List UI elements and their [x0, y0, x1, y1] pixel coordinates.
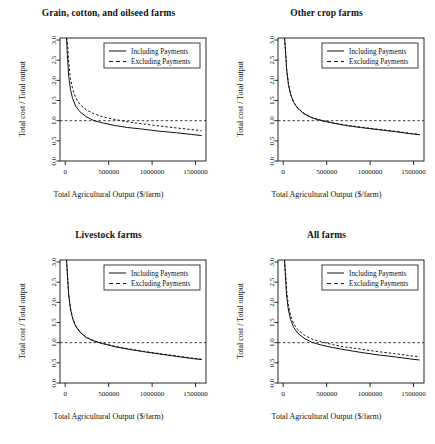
x-tick-label: 1000000	[358, 390, 383, 398]
plot-area: 0.00.51.01.52.02.53.00500000100000015000…	[218, 222, 435, 444]
x-tick-label: 1500000	[183, 390, 208, 398]
y-tick-label: 2.0	[50, 75, 58, 84]
y-tick-label: 3.0	[50, 257, 58, 266]
x-tick-label: 1000000	[358, 168, 383, 176]
x-tick-label: 1000000	[140, 390, 165, 398]
y-tick-label: 2.5	[268, 55, 276, 64]
panel-livestock-farms: Livestock farms Total cost / Total outpu…	[0, 222, 217, 444]
x-axis-label: Total Agricultural Output ($/farm)	[218, 412, 435, 421]
y-tick-label: 1.5	[50, 318, 58, 327]
legend-label: Including Payments	[131, 48, 188, 56]
x-tick-label: 1500000	[401, 168, 426, 176]
x-tick-label: 1500000	[401, 390, 426, 398]
x-tick-label: 500000	[316, 168, 338, 176]
plot-area: 0.00.51.01.52.02.53.00500000100000015000…	[0, 0, 217, 222]
x-tick-label: 0	[63, 168, 67, 176]
y-tick-label: 2.5	[268, 277, 276, 286]
plot-area: 0.00.51.01.52.02.53.00500000100000015000…	[218, 0, 435, 222]
x-tick-label: 500000	[316, 390, 338, 398]
y-tick-label: 0.5	[268, 358, 276, 367]
y-tick-label: 1.0	[50, 338, 58, 347]
x-tick-label: 0	[281, 168, 285, 176]
y-tick-label: 3.0	[268, 35, 276, 44]
y-tick-label: 2.0	[268, 75, 276, 84]
y-tick-label: 1.5	[268, 318, 276, 327]
x-axis-label: Total Agricultural Output ($/farm)	[218, 190, 435, 199]
y-tick-label: 0.5	[50, 136, 58, 145]
legend-label: Including Payments	[131, 270, 188, 278]
x-tick-label: 1000000	[140, 168, 165, 176]
x-tick-label: 1500000	[183, 168, 208, 176]
y-tick-label: 1.0	[268, 338, 276, 347]
x-tick-label: 500000	[98, 168, 120, 176]
y-tick-label: 3.0	[268, 257, 276, 266]
legend-label: Including Payments	[349, 270, 406, 278]
y-tick-label: 1.0	[268, 116, 276, 125]
y-tick-label: 0.5	[50, 358, 58, 367]
legend-label: Including Payments	[349, 48, 406, 56]
plot-area: 0.00.51.01.52.02.53.00500000100000015000…	[0, 222, 217, 444]
x-tick-label: 0	[63, 390, 67, 398]
y-tick-label: 2.0	[268, 297, 276, 306]
legend-label: Excluding Payments	[349, 58, 408, 66]
x-tick-label: 500000	[98, 390, 120, 398]
legend-label: Excluding Payments	[349, 280, 408, 288]
panel-grain-cotton-oilseed-farms: Grain, cotton, and oilseed farms Total c…	[0, 0, 217, 222]
y-tick-label: 0.0	[268, 378, 276, 387]
y-tick-label: 0.0	[50, 156, 58, 165]
y-tick-label: 2.5	[50, 277, 58, 286]
x-axis-label: Total Agricultural Output ($/farm)	[0, 190, 217, 199]
x-axis-label: Total Agricultural Output ($/farm)	[0, 412, 217, 421]
panel-all-farms: All farms Total cost / Total output 0.00…	[218, 222, 435, 444]
y-tick-label: 2.0	[50, 297, 58, 306]
legend-label: Excluding Payments	[131, 58, 190, 66]
y-tick-label: 0.0	[50, 378, 58, 387]
figure-multi-panel-cost-output: Grain, cotton, and oilseed farms Total c…	[0, 0, 435, 444]
x-tick-label: 0	[281, 390, 285, 398]
y-tick-label: 2.5	[50, 55, 58, 64]
y-tick-label: 1.5	[268, 96, 276, 105]
y-tick-label: 3.0	[50, 35, 58, 44]
panel-other-crop-farms: Other crop farms Total cost / Total outp…	[218, 0, 435, 222]
y-tick-label: 1.5	[50, 96, 58, 105]
y-tick-label: 0.0	[268, 156, 276, 165]
y-tick-label: 1.0	[50, 116, 58, 125]
legend-label: Excluding Payments	[131, 280, 190, 288]
y-tick-label: 0.5	[268, 136, 276, 145]
